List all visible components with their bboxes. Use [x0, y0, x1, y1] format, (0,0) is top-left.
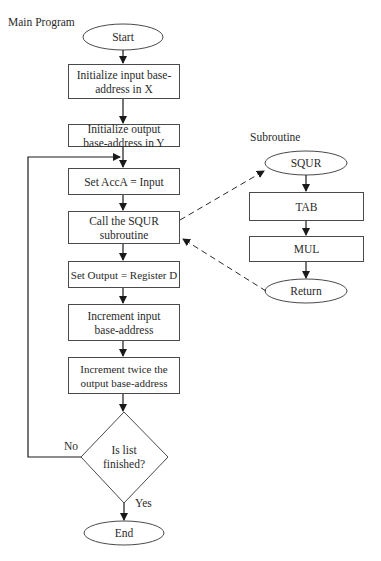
- step-set-acca: Set AccA = Input: [68, 168, 180, 195]
- step-increment-input: Increment input base-address: [68, 304, 180, 341]
- subroutine-title: Subroutine: [250, 131, 300, 143]
- return-terminal: Return: [265, 279, 347, 303]
- decision-no-label: No: [64, 440, 78, 452]
- main-program-title: Main Program: [8, 16, 75, 28]
- sub-step-tab: TAB: [249, 192, 364, 221]
- step-call-squr: Call the SQUR subroutine: [68, 211, 180, 244]
- step-init-input: Initialize input base-address in X: [68, 64, 180, 99]
- step-init-output: Initialize output base-address in Y: [68, 124, 180, 147]
- step-increment-output: Increment twice the output base-address: [68, 357, 180, 394]
- step-set-output: Set Output = Register D: [68, 261, 180, 288]
- step-init-output-label: Initialize output base-address in Y: [69, 122, 179, 150]
- end-terminal: End: [84, 521, 164, 545]
- decision-list-finished: Is list finished?: [94, 428, 154, 486]
- decision-yes-label: Yes: [135, 497, 152, 509]
- start-terminal: Start: [83, 24, 163, 50]
- sub-step-mul: MUL: [249, 236, 364, 262]
- squr-terminal: SQUR: [265, 151, 347, 175]
